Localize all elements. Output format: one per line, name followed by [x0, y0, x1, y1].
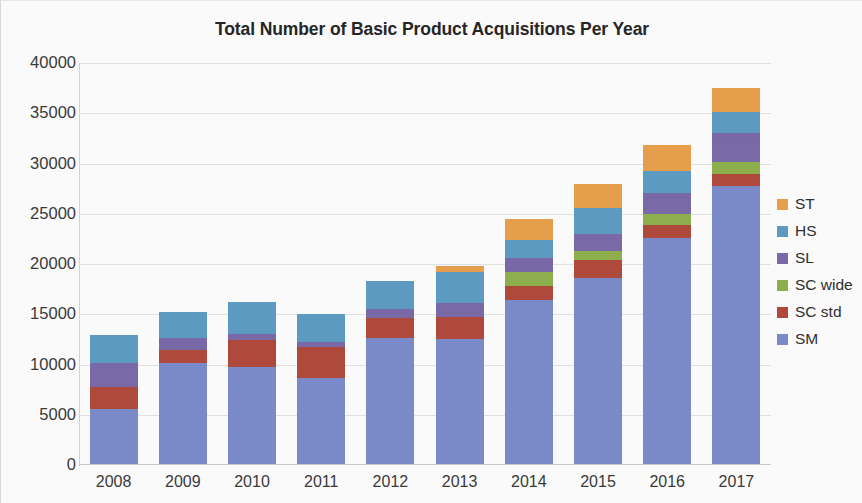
bar-segment-sm[interactable] — [228, 367, 276, 465]
bar-column[interactable] — [90, 335, 138, 465]
legend-swatch-icon — [777, 226, 788, 237]
bar-segment-sc-std[interactable] — [297, 347, 345, 377]
bar-segment-sc-wide[interactable] — [643, 214, 691, 225]
x-tick-label: 2010 — [217, 473, 287, 491]
bar-column[interactable] — [436, 266, 484, 465]
bar-segment-sm[interactable] — [643, 238, 691, 465]
chart-legend: STHSSLSC wideSC stdSM — [777, 191, 861, 353]
y-tick-label: 40000 — [6, 53, 76, 72]
bar-segment-sm[interactable] — [436, 339, 484, 465]
x-tick-label: 2011 — [286, 473, 356, 491]
x-tick-label: 2008 — [79, 473, 149, 491]
y-tick-label: 15000 — [6, 304, 76, 323]
bar-segment-sl[interactable] — [366, 309, 414, 318]
legend-item-sm[interactable]: SM — [777, 326, 861, 352]
bar-segment-sm[interactable] — [574, 278, 622, 465]
bar-column[interactable] — [366, 281, 414, 465]
y-tick-label: 20000 — [6, 254, 76, 273]
legend-label: SM — [795, 330, 818, 348]
legend-item-sl[interactable]: SL — [777, 245, 861, 271]
bar-segment-hs[interactable] — [574, 208, 622, 234]
bar-column[interactable] — [574, 184, 622, 465]
bar-segment-hs[interactable] — [159, 312, 207, 338]
x-tick-label: 2014 — [494, 473, 564, 491]
bar-column[interactable] — [159, 312, 207, 465]
bar-segment-sc-wide[interactable] — [505, 272, 553, 286]
legend-label: SC wide — [795, 276, 853, 294]
bar-column[interactable] — [505, 219, 553, 465]
bar-segment-sl[interactable] — [159, 338, 207, 350]
y-tick-label: 5000 — [6, 405, 76, 424]
bar-segment-st[interactable] — [505, 219, 553, 240]
legend-item-st[interactable]: ST — [777, 191, 861, 217]
bar-column[interactable] — [643, 145, 691, 465]
chart-title: Total Number of Basic Product Acquisitio… — [1, 19, 862, 40]
bar-segment-sc-std[interactable] — [505, 286, 553, 300]
y-tick-label: 35000 — [6, 103, 76, 122]
bar-segment-sc-std[interactable] — [228, 340, 276, 366]
bar-segment-sc-std[interactable] — [159, 350, 207, 362]
bar-segment-sl[interactable] — [643, 193, 691, 214]
bar-segment-hs[interactable] — [643, 171, 691, 193]
bar-segment-sc-std[interactable] — [90, 387, 138, 409]
legend-item-sc-wide[interactable]: SC wide — [777, 272, 861, 298]
bar-segment-sm[interactable] — [90, 409, 138, 465]
legend-swatch-icon — [777, 199, 788, 210]
y-tick-label: 10000 — [6, 355, 76, 374]
chart-container: Total Number of Basic Product Acquisitio… — [0, 0, 862, 503]
bar-segment-sm[interactable] — [712, 186, 760, 465]
y-tick-label: 30000 — [6, 154, 76, 173]
bar-column[interactable] — [228, 302, 276, 465]
plot-area — [79, 63, 771, 465]
legend-swatch-icon — [777, 280, 788, 291]
x-tick-label: 2012 — [355, 473, 425, 491]
bar-segment-hs[interactable] — [228, 302, 276, 334]
gridline — [79, 113, 771, 114]
bar-segment-sc-wide[interactable] — [712, 162, 760, 174]
bar-segment-sm[interactable] — [159, 363, 207, 466]
y-tick-label: 0 — [6, 455, 76, 474]
bar-segment-sc-std[interactable] — [643, 225, 691, 238]
x-tick-label: 2015 — [563, 473, 633, 491]
legend-swatch-icon — [777, 307, 788, 318]
bar-segment-sl[interactable] — [436, 303, 484, 317]
bar-segment-hs[interactable] — [505, 240, 553, 258]
bar-segment-hs[interactable] — [90, 335, 138, 362]
legend-swatch-icon — [777, 334, 788, 345]
bar-segment-sl[interactable] — [712, 133, 760, 161]
bar-segment-hs[interactable] — [712, 112, 760, 133]
bar-segment-st[interactable] — [643, 145, 691, 170]
legend-swatch-icon — [777, 253, 788, 264]
x-tick-label: 2013 — [425, 473, 495, 491]
bar-segment-hs[interactable] — [297, 314, 345, 342]
bar-segment-sm[interactable] — [505, 300, 553, 465]
bar-segment-st[interactable] — [574, 184, 622, 208]
bar-segment-sl[interactable] — [505, 258, 553, 272]
bar-segment-sc-std[interactable] — [712, 174, 760, 186]
gridline — [79, 63, 771, 64]
bar-segment-sm[interactable] — [297, 378, 345, 465]
legend-label: SL — [795, 249, 814, 267]
legend-label: ST — [795, 195, 815, 213]
bar-column[interactable] — [712, 88, 760, 465]
bar-segment-st[interactable] — [712, 88, 760, 112]
legend-item-sc-std[interactable]: SC std — [777, 299, 861, 325]
x-tick-label: 2009 — [148, 473, 218, 491]
bar-segment-sc-std[interactable] — [574, 260, 622, 278]
x-tick-label: 2017 — [701, 473, 771, 491]
legend-item-hs[interactable]: HS — [777, 218, 861, 244]
y-tick-label: 25000 — [6, 204, 76, 223]
bar-segment-sl[interactable] — [90, 363, 138, 387]
x-axis-line — [79, 464, 771, 465]
legend-label: HS — [795, 222, 817, 240]
bar-segment-sc-std[interactable] — [436, 317, 484, 339]
bar-segment-sm[interactable] — [366, 338, 414, 465]
bar-segment-sl[interactable] — [574, 234, 622, 251]
x-tick-label: 2016 — [632, 473, 702, 491]
legend-label: SC std — [795, 303, 842, 321]
bar-segment-hs[interactable] — [366, 281, 414, 309]
bar-column[interactable] — [297, 314, 345, 465]
bar-segment-sc-std[interactable] — [366, 318, 414, 338]
bar-segment-sc-wide[interactable] — [574, 251, 622, 260]
bar-segment-hs[interactable] — [436, 272, 484, 303]
